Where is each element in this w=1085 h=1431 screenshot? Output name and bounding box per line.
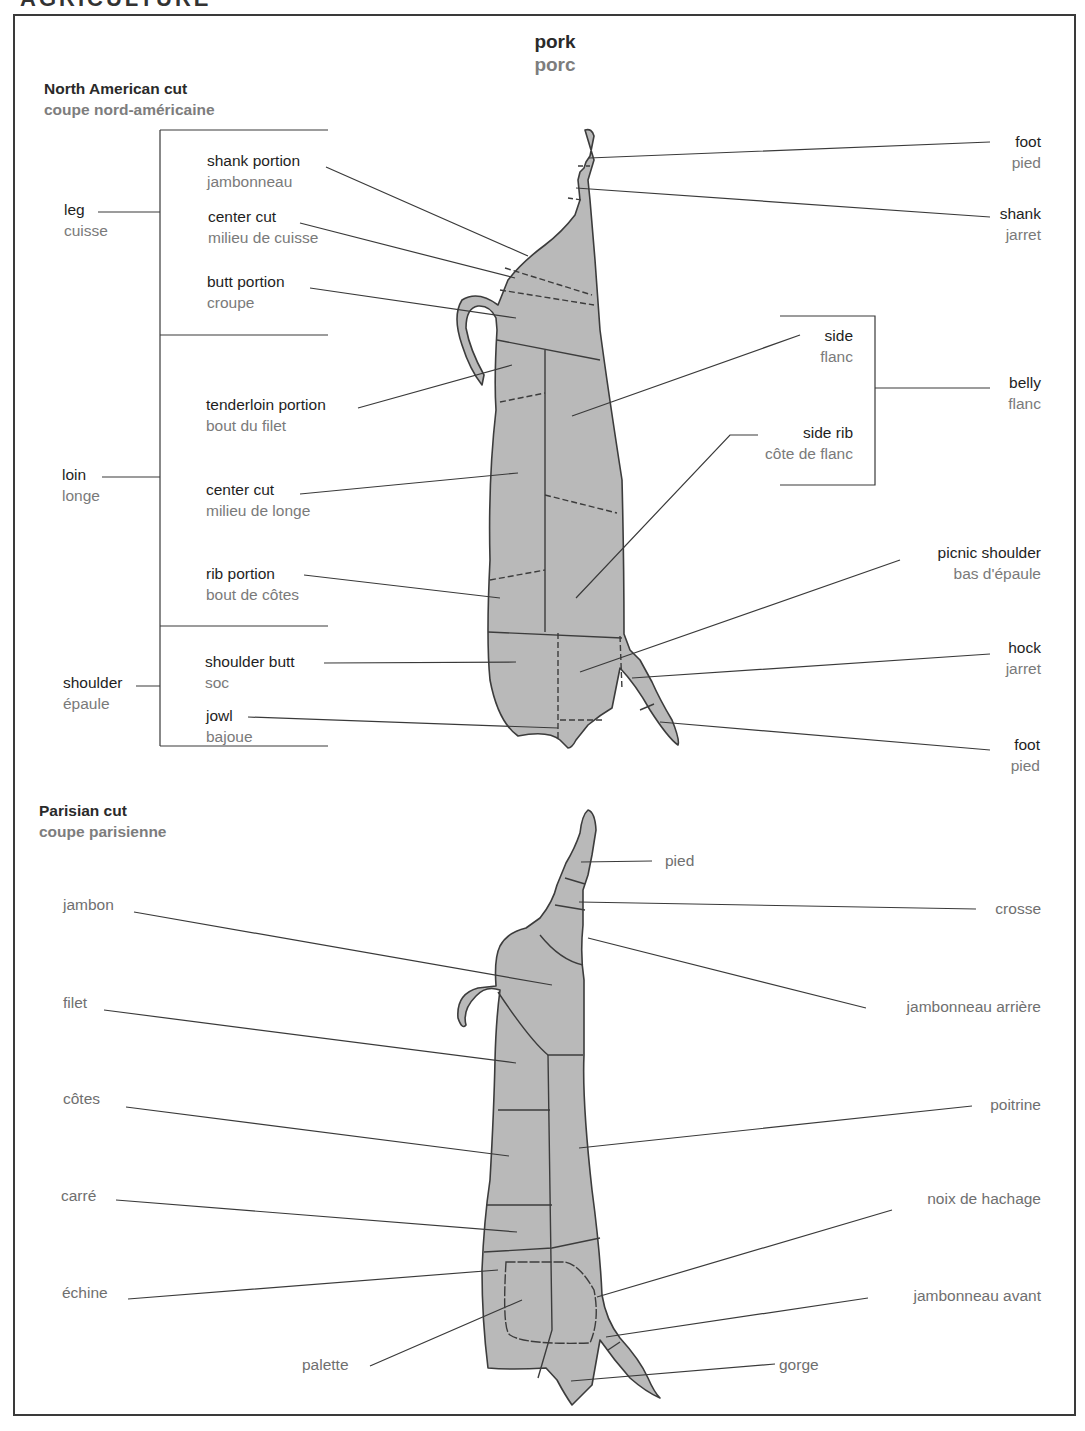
na-cut-shank: shank jarret xyxy=(900,203,1041,245)
group-fr: cuisse xyxy=(64,220,108,241)
na-cut-front-foot: foot pied xyxy=(900,734,1040,776)
group-en: loin xyxy=(62,464,100,485)
title-fr: porc xyxy=(500,53,610,76)
parisian-cut-poitrine: poitrine xyxy=(940,1096,1041,1114)
cut-en: tenderloin portion xyxy=(206,394,326,415)
parisian-cut-jambon: jambon xyxy=(63,896,114,914)
parisian-cut-jambonneau-arriere: jambonneau arrière xyxy=(860,998,1041,1016)
cut-en: hock xyxy=(900,637,1041,658)
group-fr: flanc xyxy=(960,393,1041,414)
cut-en: center cut xyxy=(208,206,318,227)
parisian-cut-jambonneau-avant: jambonneau avant xyxy=(860,1287,1041,1305)
na-cut-picnic-shoulder: picnic shoulder bas d'épaule xyxy=(860,542,1041,584)
na-cut-leg-center-cut: center cut milieu de cuisse xyxy=(208,206,318,248)
parisian-cut-carre: carré xyxy=(61,1187,96,1205)
cut-fr: bajoue xyxy=(206,726,253,747)
parisian-cut-cotes: côtes xyxy=(63,1090,100,1108)
group-label-shoulder: shoulder épaule xyxy=(63,672,122,714)
na-carcass-shape xyxy=(457,130,678,748)
na-cut-tenderloin-portion: tenderloin portion bout du filet xyxy=(206,394,326,436)
group-fr: longe xyxy=(62,485,100,506)
group-en: leg xyxy=(64,199,108,220)
diagram-title: pork porc xyxy=(500,30,610,76)
parisian-cut-gorge: gorge xyxy=(779,1356,819,1374)
parisian-cut-pied: pied xyxy=(665,852,694,870)
cut-en: jowl xyxy=(206,705,253,726)
na-cut-rib-portion: rib portion bout de côtes xyxy=(206,563,299,605)
cut-en: shoulder butt xyxy=(205,651,295,672)
cut-en: center cut xyxy=(206,479,310,500)
parisian-heading-fr: coupe parisienne xyxy=(39,821,166,842)
parisian-cut-noix-de-hachage: noix de hachage xyxy=(880,1190,1041,1208)
cut-en: butt portion xyxy=(207,271,285,292)
cut-fr: jarret xyxy=(900,658,1041,679)
parisian-carcass-shape xyxy=(458,810,660,1405)
cut-en: picnic shoulder xyxy=(860,542,1041,563)
parisian-heading-en: Parisian cut xyxy=(39,800,166,821)
na-cut-side: side flanc xyxy=(720,325,853,367)
na-cut-shoulder-butt: shoulder butt soc xyxy=(205,651,295,693)
cut-fr: côte de flanc xyxy=(720,443,853,464)
group-label-loin: loin longe xyxy=(62,464,100,506)
cut-en: foot xyxy=(900,734,1040,755)
cut-fr: jarret xyxy=(900,224,1041,245)
cut-fr: pied xyxy=(900,152,1041,173)
group-fr: épaule xyxy=(63,693,122,714)
cut-fr: bout du filet xyxy=(206,415,326,436)
cut-fr: soc xyxy=(205,672,295,693)
na-cut-hind-foot: foot pied xyxy=(900,131,1041,173)
parisian-section-heading: Parisian cut coupe parisienne xyxy=(39,800,166,842)
cut-fr: milieu de cuisse xyxy=(208,227,318,248)
cut-en: rib portion xyxy=(206,563,299,584)
parisian-cut-echine: échine xyxy=(62,1284,108,1302)
group-en: belly xyxy=(960,372,1041,393)
na-cut-loin-center-cut: center cut milieu de longe xyxy=(206,479,310,521)
cut-fr: pied xyxy=(900,755,1040,776)
na-cut-butt-portion: butt portion croupe xyxy=(207,271,285,313)
parisian-cut-palette: palette xyxy=(302,1356,349,1374)
title-en: pork xyxy=(500,30,610,53)
cut-fr: milieu de longe xyxy=(206,500,310,521)
cut-en: shank xyxy=(900,203,1041,224)
cut-fr: jambonneau xyxy=(207,171,300,192)
cut-en: shank portion xyxy=(207,150,300,171)
cut-fr: flanc xyxy=(720,346,853,367)
na-heading-fr: coupe nord-américaine xyxy=(44,99,215,120)
cut-en: foot xyxy=(900,131,1041,152)
na-cut-hock: hock jarret xyxy=(900,637,1041,679)
cut-fr: bout de côtes xyxy=(206,584,299,605)
cut-en: side rib xyxy=(720,422,853,443)
group-en: shoulder xyxy=(63,672,122,693)
group-label-belly: belly flanc xyxy=(960,372,1041,414)
na-cut-shank-portion: shank portion jambonneau xyxy=(207,150,300,192)
na-cut-jowl: jowl bajoue xyxy=(206,705,253,747)
cut-fr: bas d'épaule xyxy=(860,563,1041,584)
group-label-leg: leg cuisse xyxy=(64,199,108,241)
cut-fr: croupe xyxy=(207,292,285,313)
cut-en: side xyxy=(720,325,853,346)
na-cut-side-rib: side rib côte de flanc xyxy=(720,422,853,464)
parisian-cut-crosse: crosse xyxy=(940,900,1041,918)
parisian-cut-filet: filet xyxy=(63,994,87,1012)
na-section-heading: North American cut coupe nord-américaine xyxy=(44,78,215,120)
na-heading-en: North American cut xyxy=(44,78,215,99)
